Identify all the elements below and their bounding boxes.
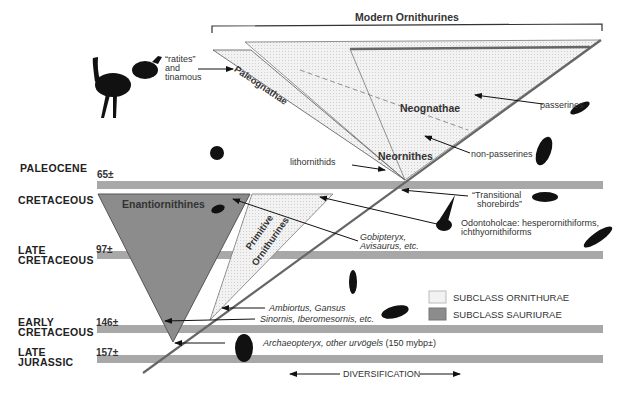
diagram-title: Modern Ornithurines: [355, 12, 459, 23]
ann-sinornis: Sinornis, Iberomesornis, etc.: [260, 315, 374, 324]
label-enantiornithines: Enantiornithines: [122, 199, 205, 210]
ann-odontoholcae-2: ichthyornithiforms: [461, 228, 532, 237]
ann-lithornithids: lithornithids: [290, 158, 336, 167]
label-neognathae: Neognathae: [400, 103, 460, 114]
ann-gobipteryx-2: Avisaurus, etc.: [360, 242, 419, 251]
modern-bracket: [212, 24, 602, 33]
label-neornithes: Neornithes: [378, 151, 433, 162]
legend-sauriurae: SUBCLASS SAURIURAE: [453, 310, 562, 320]
ann-ratites-3: tinamous: [165, 73, 202, 82]
age-65: 65±: [97, 170, 114, 180]
ann-passerines: passerines: [540, 101, 584, 110]
axis-diversification: DIVERSIFICATION: [343, 370, 420, 379]
era-paleocene: PALEOCENE: [20, 163, 87, 174]
legend-ornithurae: SUBCLASS ORNITHURAE: [453, 293, 569, 303]
age-97: 97±: [96, 245, 113, 255]
ann-non-passerines: non-passerines: [471, 150, 533, 159]
era-late-jurassic-2: JURASSIC: [18, 357, 74, 368]
age-157: 157±: [96, 348, 118, 358]
era-cretaceous: CRETACEOUS: [18, 195, 94, 206]
phylogeny-diagram: [0, 0, 636, 394]
age-146: 146±: [96, 318, 118, 328]
ann-transitional-2: shorebirds”: [477, 200, 522, 209]
ann-ambiortus: Ambiortus, Gansus: [269, 304, 346, 313]
ann-archaeopteryx: Archaeopteryx, other urvögels (150 mybp±…: [263, 339, 436, 348]
era-late-cretaceous-2: CRETACEOUS: [18, 255, 94, 266]
era-early-cretaceous-2: CRETACEOUS: [18, 327, 94, 338]
